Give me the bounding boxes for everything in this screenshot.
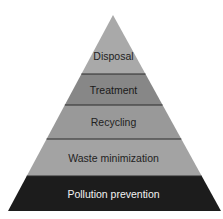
- layer-label-recycling: Recycling: [0, 116, 223, 128]
- layer-label-treatment: Treatment: [0, 84, 223, 96]
- pyramid-layer-disposal: [81, 15, 145, 74]
- layer-label-pollution-prevention: Pollution prevention: [0, 188, 223, 200]
- layer-label-disposal: Disposal: [0, 50, 223, 62]
- layer-label-waste-minimization: Waste minimization: [0, 152, 223, 164]
- pyramid-diagram: [0, 0, 223, 219]
